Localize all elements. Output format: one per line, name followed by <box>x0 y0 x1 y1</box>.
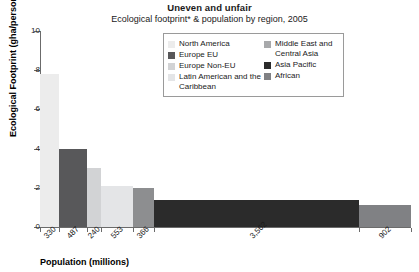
y-tick-label: 8 <box>10 65 40 74</box>
bar-asia-pacific <box>154 200 359 227</box>
y-tick-label: 6 <box>10 104 40 113</box>
legend-swatch-icon <box>168 41 175 48</box>
y-tick-label: 4 <box>10 144 40 153</box>
chart-subtitle: Ecological footprint* & population by re… <box>0 14 419 24</box>
y-tick-label: 0 <box>10 222 40 231</box>
legend-swatch-icon <box>168 74 175 81</box>
legend-item: Europe Non-EU <box>168 61 264 71</box>
legend: North AmericaEurope EUEurope Non-EULatin… <box>163 33 344 97</box>
legend-item-label: Middle East and Central Asia <box>275 39 342 59</box>
x-tick-mark <box>133 228 134 232</box>
legend-item-label: North America <box>179 39 230 49</box>
legend-item: Middle East and Central Asia <box>264 39 342 59</box>
ecological-footprint-chart: Uneven and unfair Ecological footprint* … <box>0 0 419 272</box>
legend-item-label: Latin American and the Caribbean <box>179 72 264 92</box>
x-tick-mark <box>359 228 360 232</box>
x-axis-title: Population (millions) <box>40 257 129 267</box>
chart-title: Uneven and unfair <box>0 2 419 13</box>
legend-item-label: Europe EU <box>179 50 218 60</box>
legend-swatch-icon <box>264 41 271 48</box>
bar-europe-eu <box>59 149 87 227</box>
bar-middle-east-and-central-asia <box>133 188 154 227</box>
legend-item: Latin American and the Caribbean <box>168 72 264 92</box>
bar-europe-non-eu <box>87 168 101 227</box>
y-tick-label: 2 <box>10 183 40 192</box>
bar-latin-american-and-the-caribbean <box>101 186 133 227</box>
legend-item: Europe EU <box>168 50 264 60</box>
legend-swatch-icon <box>264 73 271 80</box>
bar-north-america <box>40 74 59 227</box>
legend-item-label: African <box>275 71 300 81</box>
legend-item: Asia Pacific <box>264 60 342 70</box>
legend-swatch-icon <box>168 63 175 70</box>
legend-item: African <box>264 71 342 81</box>
legend-column-right: Middle East and Central AsiaAsia Pacific… <box>264 39 342 82</box>
x-tick-mark <box>411 228 412 232</box>
legend-item-label: Europe Non-EU <box>179 61 235 71</box>
x-tick-mark <box>154 228 155 232</box>
bar-african <box>359 205 411 227</box>
x-tick-mark <box>40 228 41 232</box>
x-tick-mark <box>59 228 60 232</box>
y-tick-label: 10 <box>10 26 40 35</box>
legend-swatch-icon <box>264 62 271 69</box>
legend-swatch-icon <box>168 52 175 59</box>
legend-item-label: Asia Pacific <box>275 60 316 70</box>
legend-column-left: North AmericaEurope EUEurope Non-EULatin… <box>168 39 264 93</box>
legend-item: North America <box>168 39 264 49</box>
